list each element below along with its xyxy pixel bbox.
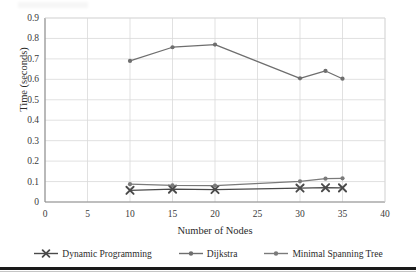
dot-marker xyxy=(213,42,217,46)
dot-marker xyxy=(323,69,327,73)
legend-label: Minimal Spanning Tree xyxy=(292,249,382,259)
x-tick-label: 40 xyxy=(373,209,397,219)
series-minimal-spanning-tree xyxy=(128,176,345,188)
x-axis-title: Number of Nodes xyxy=(45,225,385,236)
dot-marker xyxy=(340,77,344,81)
dot-marker xyxy=(170,45,174,49)
x-tick-label: 5 xyxy=(76,209,100,219)
dot-marker xyxy=(323,177,327,181)
series-dijkstra xyxy=(128,42,345,80)
x-tick-label: 30 xyxy=(288,209,312,219)
x-tick-label: 15 xyxy=(161,209,185,219)
y-tick-label: 0.2 xyxy=(13,156,39,166)
dot-marker xyxy=(178,248,204,259)
y-tick-label: 0 xyxy=(13,197,39,207)
series-layer xyxy=(126,42,346,193)
dot-marker xyxy=(213,184,217,188)
chart-legend: Dynamic ProgrammingDijkstraMinimal Spann… xyxy=(0,248,416,259)
chart-figure: 0.90.80.70.60.50.40.30.20.10 05101520253… xyxy=(0,0,416,279)
x-tick-label: 0 xyxy=(33,209,57,219)
dot-marker xyxy=(128,59,132,63)
dot-marker xyxy=(263,248,289,259)
x-tick-label: 25 xyxy=(246,209,270,219)
legend-label: Dijkstra xyxy=(207,249,238,259)
y-tick-label: 0.1 xyxy=(13,177,39,187)
x-marker xyxy=(33,248,59,259)
footer-rule xyxy=(0,267,416,270)
legend-item[interactable]: Minimal Spanning Tree xyxy=(263,248,382,259)
x-tick-label: 35 xyxy=(331,209,355,219)
x-tick-label: 20 xyxy=(203,209,227,219)
footer-rule-secondary xyxy=(0,271,416,272)
legend-label: Dynamic Programming xyxy=(62,249,151,259)
dot-marker xyxy=(298,76,302,80)
legend-item[interactable]: Dynamic Programming xyxy=(33,248,151,259)
dot-marker xyxy=(170,183,174,187)
legend-item[interactable]: Dijkstra xyxy=(178,248,238,259)
dot-marker xyxy=(128,182,132,186)
line-chart-canvas xyxy=(0,0,416,279)
dot-marker xyxy=(298,179,302,183)
x-tick-label: 10 xyxy=(118,209,142,219)
y-axis-title: Time (seconds) xyxy=(18,20,29,140)
dot-marker xyxy=(340,176,344,180)
